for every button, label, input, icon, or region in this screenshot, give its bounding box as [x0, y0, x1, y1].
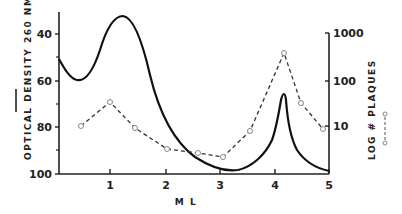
tick-label: 100: [333, 75, 356, 88]
tick-label: 40: [37, 28, 53, 41]
tick-label: 5: [325, 179, 333, 192]
tick-label: 4: [271, 179, 279, 192]
tick-label: 1000: [333, 27, 364, 40]
tick-label: 100: [29, 168, 52, 181]
optical-density-curve: [59, 16, 329, 171]
y-axis-right-title: LOG # PLAQUES: [367, 59, 377, 160]
tick-label: 1: [106, 179, 114, 192]
x-axis-ticks: 12345: [106, 169, 333, 192]
tick-label: 80: [37, 121, 53, 134]
chart: 406080100 100010010 12345 M L OPTICAL DE…: [0, 0, 402, 214]
tick-label: 60: [37, 75, 53, 88]
left-axis-ticks: 406080100: [29, 28, 59, 181]
tick-label: 2: [162, 179, 170, 192]
legend-circle-marker-icon: [383, 141, 387, 145]
right-axis-ticks: 100010010: [325, 27, 364, 133]
tick-label: 3: [216, 179, 224, 192]
x-axis-title: M L: [175, 197, 197, 207]
plaques-markers: [79, 51, 326, 160]
y-axis-left-title: OPTICAL DENSITY 260 NM: [23, 0, 33, 160]
tick-label: 10: [333, 120, 349, 133]
legend-circle-marker-icon: [383, 112, 387, 116]
